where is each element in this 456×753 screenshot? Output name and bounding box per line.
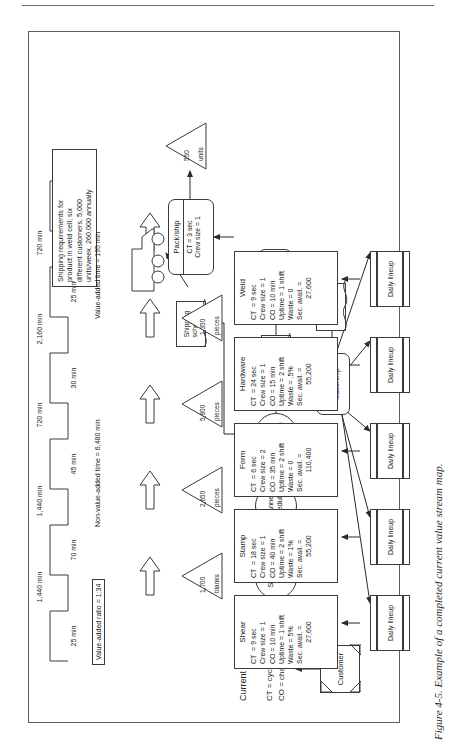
inventory-text: 2,650 pieces	[192, 488, 220, 507]
inventory-triangle-2: 2,650 pieces	[180, 465, 224, 515]
process-avail-label: Sec. avail. =	[295, 342, 304, 406]
daily-lineup-1[interactable]: Daily lineup	[370, 595, 410, 651]
finished-goods-inventory: 550 units	[164, 121, 208, 171]
inventory-qty: 1,700	[199, 577, 206, 593]
process-waste: Waste = 5%	[286, 600, 295, 664]
pack-ship-name: Pack/ship	[172, 221, 181, 254]
process-avail-value: 27,600	[305, 256, 312, 320]
daily-lineup-4[interactable]: Daily lineup	[370, 337, 410, 393]
pack-ship-ct: CT = 3 sec	[186, 221, 194, 254]
page-rule	[22, 5, 434, 6]
process-box-form: Form CT = 6 sec Crew size = 2 CO = 35 mi…	[234, 423, 338, 497]
inventory-text: 1,700 blanks	[192, 574, 220, 593]
inventory-unit: pieces	[213, 316, 220, 335]
daily-lineup-3[interactable]: Daily lineup	[370, 423, 410, 479]
finished-goods-unit: units	[197, 147, 204, 161]
inventory-text: 1,350 pieces	[192, 316, 220, 335]
process-co: CO = 35 min	[268, 428, 277, 492]
process-box-hardware: Hardware CT = 24 sec Crew size = 1 CO = …	[234, 337, 338, 411]
process-crew: Crew size = 1	[258, 256, 267, 320]
daily-lineup-5[interactable]: Daily lineup	[370, 251, 410, 307]
lineup-cap-bottom	[403, 509, 410, 565]
process-avail-label: Sec. avail. =	[295, 514, 304, 578]
process-co: CO = 10 min	[268, 600, 277, 664]
lineup-cap-bottom	[403, 423, 410, 479]
process-name: Stamp	[238, 514, 247, 578]
process-avail-label: Sec. avail. =	[295, 256, 304, 320]
timeline-nva-4: 2,160 min	[36, 303, 43, 355]
process-avail-value: 27,600	[305, 600, 312, 664]
process-ct: CT = 24 sec	[249, 342, 258, 406]
process-uptime: Uptime = 2 shift	[277, 428, 286, 492]
value-added-ratio: Value-added ratio = 1:34	[92, 579, 105, 665]
process-avail-label: Sec. avail. =	[295, 428, 304, 492]
inventory-qty: 5,800	[199, 405, 206, 421]
timeline-va-2: 70 min	[70, 525, 77, 575]
timeline-va-1: 25 min	[70, 611, 77, 661]
value-stream-map-canvas: Current State Map CT = cycle time CO = c…	[28, 31, 400, 723]
daily-lineup-2[interactable]: Daily lineup	[370, 509, 410, 565]
timeline-va-3: 45 min	[70, 439, 77, 489]
pack-ship-divider	[183, 200, 184, 274]
process-ct: CT = 9 sec	[249, 256, 258, 320]
process-crew: Crew size = 1	[258, 342, 267, 406]
finished-goods-text: 550 units	[176, 147, 204, 161]
lineup-cap-bottom	[403, 337, 410, 393]
process-crew: Crew size = 2	[258, 428, 267, 492]
process-box-weld: Weld CT = 9 sec Crew size = 1 CO = 10 mi…	[234, 251, 338, 325]
timeline-nva-1: 1,440 min	[36, 561, 43, 613]
pack-ship-crew: Crew size = 1	[194, 216, 202, 257]
process-waste: Waste = 0	[286, 256, 295, 320]
process-crew: Crew size = 1	[258, 600, 267, 664]
process-ct: CT = 9 sec	[249, 600, 258, 664]
process-co: CO = 10 min	[268, 256, 277, 320]
process-co: CO = 40 min	[268, 514, 277, 578]
timeline-va-4: 30 min	[70, 353, 77, 403]
lineup-cap-top	[370, 509, 377, 565]
inventory-triangle-1: 1,700 blanks	[180, 551, 224, 601]
lineup-cap-top	[370, 423, 377, 479]
process-waste: Waste = .5%	[286, 342, 295, 406]
inventory-triangle-4: 1,350 pieces	[180, 293, 224, 343]
process-crew: Crew size = 1	[258, 514, 267, 578]
lineup-label-3: Daily lineup	[377, 423, 403, 479]
lineup-cap-top	[370, 251, 377, 307]
inventory-triangle-icon	[164, 121, 208, 171]
process-box-stamp: Stamp CT = 18 sec Crew size = 1 CO = 40 …	[234, 509, 338, 583]
value-added-total: Value-added time = 195 min	[94, 232, 101, 319]
process-avail-value: 55,200	[305, 514, 312, 578]
process-name: Weld	[238, 256, 247, 320]
figure-rotation-host: Current State Map CT = cycle time CO = c…	[28, 31, 400, 723]
process-ct: CT = 18 sec	[249, 514, 258, 578]
process-uptime: Uptime = 2 shift	[277, 342, 286, 406]
finished-goods-qty: 550	[183, 150, 190, 161]
process-uptime: Uptime = 1 shift	[277, 600, 286, 664]
process-avail-label: Sec. avail. =	[295, 600, 304, 664]
lineup-cap-bottom	[403, 251, 410, 307]
process-uptime: Uptime = 2 shift	[277, 514, 286, 578]
lineup-label-4: Daily lineup	[377, 337, 403, 393]
process-name: Hardware	[238, 342, 247, 406]
process-box-shear: Shear CT = 9 sec Crew size = 1 CO = 10 m…	[234, 595, 338, 669]
process-name: Shear	[238, 600, 247, 664]
figure-caption: Figure 4-5. Example of a completed curre…	[432, 464, 444, 740]
timeline-nva-5: 720 min	[36, 217, 43, 269]
lineup-label-5: Daily lineup	[377, 251, 403, 307]
non-value-added-total: Non-value-added time = 6,480 min	[94, 419, 101, 527]
process-waste: Waste = 0	[286, 428, 295, 492]
lineup-cap-top	[370, 337, 377, 393]
inventory-unit: pieces	[213, 488, 220, 507]
timeline-nva-2: 1,440 min	[36, 475, 43, 527]
lineup-cap-bottom	[403, 595, 410, 651]
inventory-triangle-3: 5,800 pieces	[180, 379, 224, 429]
inventory-unit: blanks	[213, 574, 220, 593]
process-waste: Waste = 1%	[286, 514, 295, 578]
timeline-va-5: 25 min	[70, 267, 77, 317]
timeline-nva-3: 720 min	[36, 389, 43, 441]
inventory-qty: 2,650	[199, 491, 206, 507]
lineup-cap-top	[370, 595, 377, 651]
inventory-unit: pieces	[213, 402, 220, 421]
process-avail-value: 110,400	[305, 428, 312, 492]
pack-ship-box: Pack/ship CT = 3 sec Crew size = 1	[168, 199, 214, 275]
process-avail-value: 55,200	[305, 342, 312, 406]
